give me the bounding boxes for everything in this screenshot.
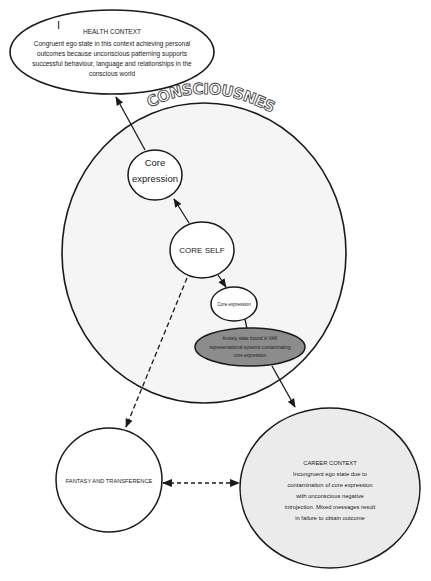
core-expression-small-node: Core expression	[211, 287, 257, 321]
health-context-line: successful behaviour, language and relat…	[32, 60, 192, 68]
core-expression-label: expression	[132, 173, 178, 184]
health-context-line: conscious world	[89, 70, 136, 77]
anxiety-state-node: Anxiety state bound in VAK representatio…	[195, 328, 305, 366]
career-context-line: Incongruent ego state due to	[293, 471, 367, 477]
career-context-line: in failure to obtain outcome	[295, 515, 365, 521]
career-context-line: introjection. Mixed messages result	[285, 504, 376, 510]
anxiety-state-line: Anxiety state bound in VAK	[222, 336, 278, 341]
fantasy-label: FANTASY AND TRANSFERENCE	[66, 478, 153, 484]
fantasy-node: FANTASY AND TRANSFERENCE	[56, 428, 162, 532]
diagram-canvas: CONSCIOUSNESS I HEALTH CONTEXT Congruent…	[0, 0, 431, 581]
cursor-glyph: I	[57, 19, 60, 31]
anxiety-state-line: representational systems contaminating	[210, 345, 291, 350]
anxiety-state-line: core expression	[234, 353, 267, 358]
health-context-heading: HEALTH CONTEXT	[83, 28, 141, 35]
career-context-heading: CAREER CONTEXT	[303, 460, 357, 466]
core-expression-label: Core	[145, 157, 166, 168]
core-expression-small-label: Core expression	[217, 302, 251, 307]
core-expression-top-node: Core expression	[128, 150, 182, 200]
core-self-label: CORE SELF	[179, 246, 224, 255]
career-context-line: with unconscious negative	[295, 493, 364, 499]
health-context-node: I HEALTH CONTEXT Congruent ego state in …	[10, 10, 214, 94]
career-context-line: contamination of core expression	[287, 482, 372, 488]
core-self-node: CORE SELF	[170, 222, 234, 278]
career-context-node: CAREER CONTEXT Incongruent ego state due…	[240, 408, 420, 568]
health-context-line: Congruent ego state in this context achi…	[34, 40, 191, 48]
health-context-line: outcomes because unconscious patterning …	[37, 50, 188, 58]
